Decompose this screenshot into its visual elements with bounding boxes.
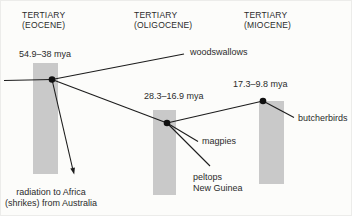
period-header-miocene: TERTIARY (MIOCENE) xyxy=(244,11,291,30)
period-header-miocene-line2: (MIOCENE) xyxy=(244,21,291,31)
period-header-eocene: TERTIARY (EOCENE) xyxy=(22,11,65,30)
age-label-eocene: 54.9–38 mya xyxy=(19,49,71,60)
taxon-label-peltops: peltops New Guinea xyxy=(193,172,243,193)
age-label-miocene: 17.3–9.8 mya xyxy=(233,79,288,90)
divergence-node-oligocene xyxy=(164,120,171,127)
arrowhead-icon xyxy=(70,168,75,175)
taxon-label-peltops-line1: peltops xyxy=(193,172,243,183)
period-header-oligocene-line2: (OLIGOCENE) xyxy=(134,21,192,31)
divergence-node-eocene xyxy=(49,76,56,83)
age-label-oligocene: 28.3–16.9 mya xyxy=(144,91,204,102)
taxon-label-butcherbirds: butcherbirds xyxy=(298,113,348,124)
taxon-label-peltops-line2: New Guinea xyxy=(193,183,243,194)
radiation-annotation-line1: radiation to Africa xyxy=(1,187,101,198)
radiation-annotation-line2: (shrikes) from Australia xyxy=(1,198,101,209)
timeline-bar-miocene xyxy=(259,101,284,184)
phylogeny-diagram: TERTIARY (EOCENE) TERTIARY (OLIGOCENE) T… xyxy=(0,0,352,216)
period-header-oligocene: TERTIARY (OLIGOCENE) xyxy=(134,11,192,30)
woodswallows-branch-line xyxy=(52,54,184,80)
divergence-node-miocene xyxy=(260,98,267,105)
taxon-label-magpies: magpies xyxy=(202,136,236,147)
taxon-label-woodswallows: woodswallows xyxy=(190,47,248,58)
radiation-annotation: radiation to Africa (shrikes) from Austr… xyxy=(1,187,101,208)
node2-to-node3-line xyxy=(167,101,263,123)
period-header-eocene-line2: (EOCENE) xyxy=(22,21,65,31)
diagram-canvas xyxy=(1,1,352,216)
